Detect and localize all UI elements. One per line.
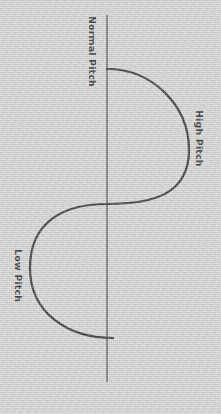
label-high-pitch: High Pitch — [195, 110, 205, 167]
diagram-vector-layer — [0, 0, 221, 414]
label-low-pitch: Low Pitch — [14, 249, 24, 302]
pitch-wave-curve — [30, 69, 189, 338]
label-normal-pitch: Normal Pitch — [88, 16, 98, 87]
pitch-diagram: Normal Pitch High Pitch Low Pitch — [0, 0, 221, 414]
